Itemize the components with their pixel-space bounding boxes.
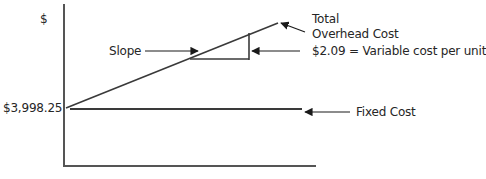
total-label: Total bbox=[312, 12, 339, 27]
slope-label: Slope bbox=[109, 44, 141, 59]
variable-cost-label: $2.09 = Variable cost per unit bbox=[312, 44, 486, 59]
fixed-cost-label: Fixed Cost bbox=[356, 105, 416, 120]
overhead-cost-label: Overhead Cost bbox=[312, 27, 399, 42]
y-axis-label: $ bbox=[40, 12, 47, 27]
y-intercept-label: $3,998.25 bbox=[3, 101, 62, 116]
total-overhead-cost-line bbox=[66, 23, 278, 108]
total-cost-arrow bbox=[281, 23, 305, 32]
